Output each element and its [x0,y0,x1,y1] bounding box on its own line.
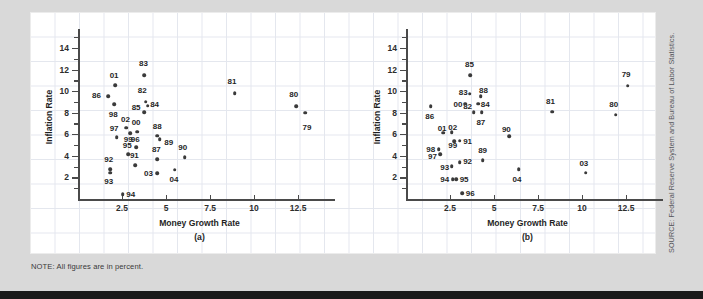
data-point-label: 80 [609,100,618,109]
figure-root: 2.557.51012.52468101214Money Growth Rate… [0,0,703,299]
x-axis-tick-label: 10 [249,203,258,213]
data-point [614,113,618,117]
x-axis-tick-label: 10 [577,203,586,213]
data-point-label: 83 [459,87,468,96]
y-axis-minor-tick [74,123,78,124]
x-axis-tick [298,195,299,199]
data-point-label: 84 [150,100,159,109]
y-axis-tick-label: 12 [50,65,69,75]
y-axis-tick [400,156,406,157]
data-point [454,177,458,181]
data-point [517,168,521,172]
data-point [463,102,467,106]
data-point-label: 84 [481,100,490,109]
data-point [626,84,630,88]
data-point [134,145,138,149]
scatter-plot-b: 2.557.51012.52468101214Money Growth Rate… [371,13,655,253]
y-axis-tick-label: 14 [378,43,397,53]
bottom-bar [0,291,703,299]
data-point-label: 99 [448,140,457,149]
x-axis-title: Money Growth Rate [159,218,240,228]
y-axis-tick [400,70,406,71]
data-point [450,164,454,168]
y-axis-tick [400,134,406,135]
y-axis-minor-tick [402,80,406,81]
x-axis-tick [254,195,255,199]
data-point [584,171,588,175]
data-point-label: 86 [92,91,101,100]
y-axis-tick [400,177,406,178]
data-point [476,102,480,106]
x-axis-title: Money Growth Rate [487,218,568,228]
y-axis-minor-tick [74,80,78,81]
data-point [133,163,137,167]
y-axis-minor-tick [402,167,406,168]
y-axis-minor-tick [74,145,78,146]
data-point-label: 91 [463,136,472,145]
data-point [507,135,511,139]
data-point [142,110,146,114]
data-point [183,156,187,160]
data-point [106,94,110,98]
y-axis-tick [400,91,406,92]
data-point-label: 89 [478,146,487,155]
data-point [126,152,130,156]
data-point-label: 90 [178,142,187,151]
y-axis-minor-tick [402,102,406,103]
y-axis-tick [72,70,78,71]
data-point [155,157,159,161]
x-axis-tick-label: 7.5 [204,203,216,213]
data-point-label: 96 [466,188,475,197]
data-point-label: 79 [302,122,311,131]
data-point-label: 94 [126,190,135,199]
x-axis-tick [626,195,627,199]
y-axis-tick-label: 14 [50,43,69,53]
data-point-label: 88 [479,86,488,95]
data-point-label: 91 [130,150,139,159]
data-point-label: 92 [104,155,113,164]
data-point [472,110,476,114]
x-axis-tick-label: 2.5 [116,203,128,213]
y-axis-minor-tick [74,188,78,189]
data-point [468,92,472,96]
x-axis-line [406,199,663,201]
x-axis-tick [210,195,211,199]
figure-note: NOTE: All figures are in percent. [31,262,143,271]
data-point-label: 03 [144,168,153,177]
data-point [135,130,139,134]
data-point-label: 01 [110,70,119,79]
data-point-label: 98 [426,145,435,154]
x-axis-tick-label: 7.5 [532,203,544,213]
y-axis-minor-tick [74,59,78,60]
y-axis-tick-label: 2 [50,172,69,182]
y-axis-minor-tick [74,167,78,168]
data-point [429,104,433,108]
data-point-label: 79 [622,70,631,79]
y-axis-tick-label: 4 [378,151,397,161]
data-point-label: 81 [546,96,555,105]
data-point [458,161,462,165]
data-point-label: 92 [463,157,472,166]
data-point-label: 00 [132,117,141,126]
y-axis-title: Inflation Rate [44,90,54,144]
data-point [479,94,483,98]
x-axis-tick [582,195,583,199]
y-axis-minor-tick [74,37,78,38]
data-point [173,168,177,172]
y-axis-minor-tick [402,59,406,60]
data-point [295,104,299,108]
data-point [114,83,118,87]
data-point [125,126,129,130]
data-point [112,102,116,106]
x-axis-tick-label: 2.5 [444,203,456,213]
x-axis-tick [538,195,539,199]
y-axis-tick-label: 12 [378,65,397,75]
x-axis-tick-label: 12.5 [618,203,635,213]
y-axis-minor-tick [402,123,406,124]
y-axis-tick-label: 2 [378,172,397,182]
data-point [481,158,485,162]
data-point-label: 97 [110,123,119,132]
y-axis-line [78,29,80,199]
data-point [461,191,465,195]
data-point-label: 80 [289,90,298,99]
